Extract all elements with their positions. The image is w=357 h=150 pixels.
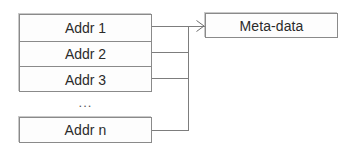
address-row-last[interactable]: Addr n <box>19 117 152 143</box>
address-row[interactable]: Addr 1 <box>20 15 151 41</box>
connector-line-row-1 <box>152 26 189 27</box>
address-row[interactable]: Addr 2 <box>20 41 151 66</box>
meta-data-label: Meta-data <box>240 19 304 33</box>
address-row-label: Addr 2 <box>65 47 106 61</box>
connector-line-row-2 <box>152 52 189 53</box>
address-row[interactable]: Addr 3 <box>20 66 151 92</box>
address-table: Addr 1 Addr 2 Addr 3 <box>19 14 152 92</box>
address-row-label: Addr 1 <box>65 21 106 35</box>
meta-data-box[interactable]: Meta-data <box>205 13 338 38</box>
connector-line-row-n <box>152 130 189 131</box>
ellipsis-indicator: ... <box>19 94 152 110</box>
connector-line-row-3 <box>152 78 189 79</box>
address-row-label: Addr 3 <box>65 73 106 87</box>
connector-bus-line <box>188 26 189 131</box>
arrowhead-icon <box>196 20 205 32</box>
diagram-canvas: Addr 1 Addr 2 Addr 3 ... Addr n Meta-dat… <box>0 0 357 150</box>
address-row-last-label: Addr n <box>65 123 107 137</box>
